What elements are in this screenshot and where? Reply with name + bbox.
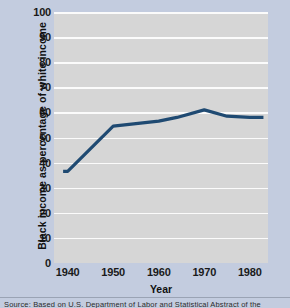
x-axis-tick-label: 1970 xyxy=(192,266,216,278)
y-axis-title: Black income as percentage of white inco… xyxy=(36,11,48,261)
data-line-series xyxy=(54,12,268,263)
source-divider xyxy=(0,297,290,298)
plot-area xyxy=(54,12,268,263)
x-axis-tick-labels: 19401950196019701980 xyxy=(54,266,268,280)
x-axis-title: Year xyxy=(54,283,268,295)
x-axis-tick-label: 1960 xyxy=(147,266,171,278)
chart-figure: 0102030405060708090100 Black income as p… xyxy=(0,0,290,308)
x-axis-tick-label: 1950 xyxy=(101,266,125,278)
x-axis-tick-label: 1980 xyxy=(238,266,262,278)
source-note: Source: Based on U.S. Department of Labo… xyxy=(4,300,290,308)
x-axis-tick-label: 1940 xyxy=(56,266,80,278)
